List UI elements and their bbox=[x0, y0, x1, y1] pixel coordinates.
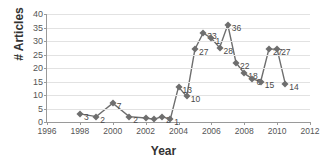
y-axis-tick-label: 5 bbox=[38, 104, 43, 113]
x-axis-tick-mark bbox=[244, 122, 245, 125]
y-axis-tick-mark bbox=[44, 55, 47, 56]
x-axis-tick-label: 2002 bbox=[136, 126, 155, 136]
data-point-label: 2 bbox=[100, 116, 105, 125]
x-axis-tick-label: 1996 bbox=[38, 126, 57, 136]
x-axis-tick-label: 2004 bbox=[169, 126, 188, 136]
data-point-label: 7 bbox=[117, 102, 122, 111]
y-axis-tick-label: 25 bbox=[33, 50, 43, 59]
gridline bbox=[47, 68, 310, 69]
x-axis-tick-label: 2000 bbox=[103, 126, 122, 136]
x-axis-tick-label: 2008 bbox=[235, 126, 254, 136]
y-axis-tick-label: 30 bbox=[33, 37, 43, 46]
y-axis-tick-label: 15 bbox=[33, 77, 43, 86]
x-axis-tick-label: 2010 bbox=[268, 126, 287, 136]
y-axis-tick-mark bbox=[44, 95, 47, 96]
y-axis-title: # Articles bbox=[12, 0, 28, 84]
gridline bbox=[47, 109, 310, 110]
data-point-label: 27 bbox=[281, 48, 290, 57]
y-axis-tick-mark bbox=[44, 41, 47, 42]
x-axis-tick-label: 2012 bbox=[301, 126, 320, 136]
data-point-label: 28 bbox=[224, 47, 233, 56]
x-axis-tick-mark bbox=[211, 122, 212, 125]
data-point-label: 1 bbox=[174, 118, 179, 127]
gridline bbox=[47, 14, 310, 15]
gridline bbox=[47, 95, 310, 96]
data-point-label: 22 bbox=[240, 62, 249, 71]
chart-container: # Articles Year 051015202530354019961998… bbox=[0, 0, 327, 166]
x-axis-tick-mark bbox=[277, 122, 278, 125]
y-axis-tick-mark bbox=[44, 14, 47, 15]
data-point-label: 10 bbox=[191, 95, 200, 104]
x-axis-tick-label: 2006 bbox=[202, 126, 221, 136]
data-point-label: 27 bbox=[199, 48, 208, 57]
data-point-label: 2 bbox=[133, 116, 138, 125]
x-axis-tick-mark bbox=[80, 122, 81, 125]
y-axis-tick-label: 40 bbox=[33, 10, 43, 19]
x-axis-tick-mark bbox=[146, 122, 147, 125]
data-point-label: 14 bbox=[289, 83, 298, 92]
x-axis-tick-mark bbox=[113, 122, 114, 125]
x-axis-tick-mark bbox=[47, 122, 48, 125]
plot-area: 0510152025303540199619982000200220042006… bbox=[47, 14, 310, 122]
y-axis-tick-mark bbox=[44, 109, 47, 110]
x-axis-tick-mark bbox=[310, 122, 311, 125]
y-axis-tick-mark bbox=[44, 28, 47, 29]
y-axis-tick-label: 10 bbox=[33, 91, 43, 100]
gridline bbox=[47, 28, 310, 29]
gridline bbox=[47, 55, 310, 56]
data-point-label: 15 bbox=[265, 81, 274, 90]
x-axis-title: Year bbox=[0, 144, 327, 158]
y-axis-tick-label: 35 bbox=[33, 23, 43, 32]
data-point-label: 3 bbox=[84, 113, 89, 122]
data-point-label: 36 bbox=[232, 24, 241, 33]
y-axis-tick-mark bbox=[44, 82, 47, 83]
y-axis-tick-label: 20 bbox=[33, 64, 43, 73]
x-axis-tick-label: 1998 bbox=[70, 126, 89, 136]
y-axis-tick-mark bbox=[44, 68, 47, 69]
gridline bbox=[47, 41, 310, 42]
